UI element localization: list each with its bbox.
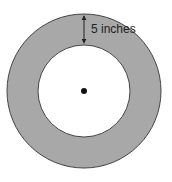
dimension-label: 5 inches xyxy=(91,22,136,36)
annulus-diagram: 5 inches xyxy=(0,0,172,182)
center-point xyxy=(81,88,87,94)
